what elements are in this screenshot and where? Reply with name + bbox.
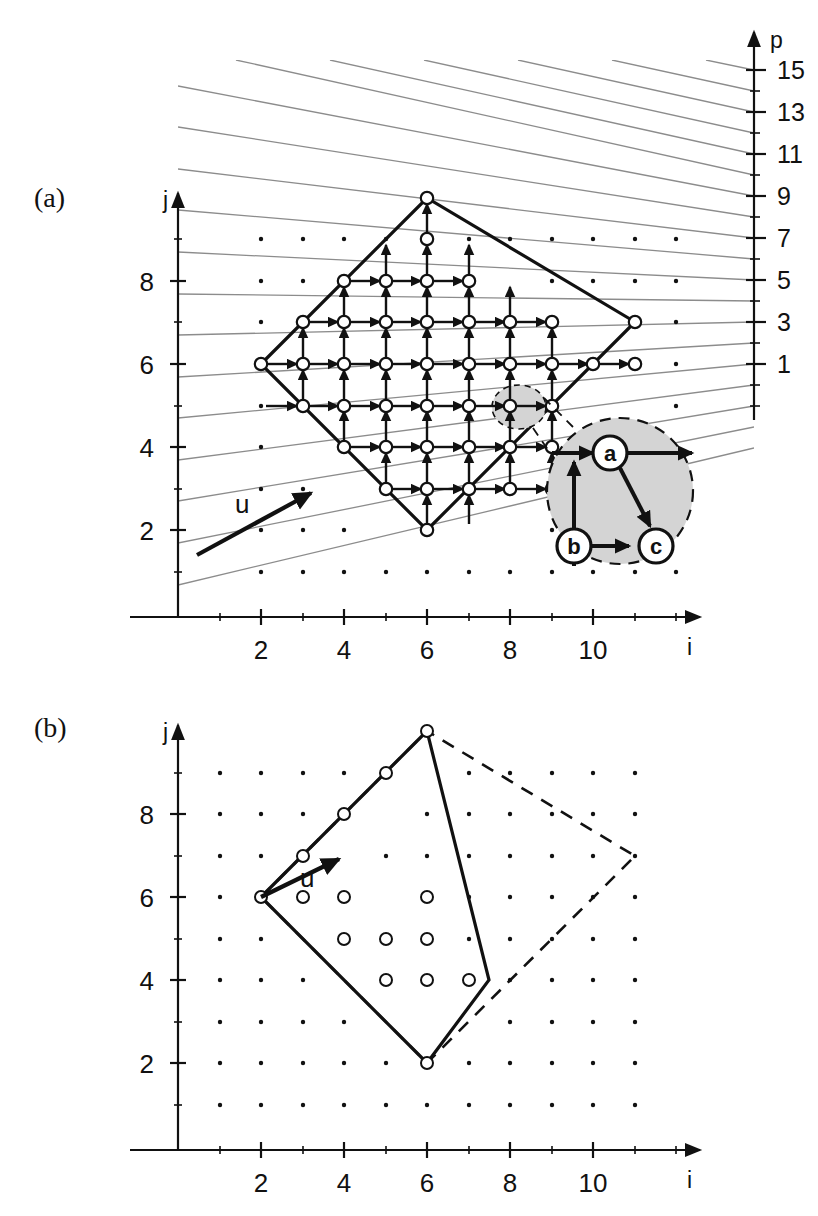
p-tick-label-9: 9: [777, 182, 791, 210]
y-axis-label-b: j: [162, 719, 168, 745]
x-tick-label-a-10: 10: [579, 635, 608, 665]
panel-b-label: (b): [34, 712, 67, 743]
p-tick-label-7: 7: [777, 224, 791, 252]
p-tick-label-1: 1: [777, 350, 791, 378]
y-tick-label-b-8: 8: [140, 800, 154, 830]
y-tick-label-a-4: 4: [140, 433, 154, 463]
y-tick-label-a-6: 6: [140, 350, 154, 380]
x-tick-label-a-2: 2: [254, 635, 268, 665]
vector-u-b-label: u: [300, 863, 314, 893]
p-tick-label-3: 3: [777, 308, 791, 336]
y-tick-label-b-4: 4: [140, 966, 154, 996]
iteration-space-figure: (a): [0, 0, 818, 1216]
detail-node-b-label: b: [567, 534, 580, 559]
x-axis-label-b: i: [687, 1167, 692, 1193]
x-tick-label-b-4: 4: [337, 1168, 351, 1198]
vector-u-a-label: u: [235, 489, 249, 519]
panel-b: (b): [34, 712, 700, 1198]
tile-nodes-b: [255, 725, 475, 1069]
p-tick-label-11: 11: [777, 140, 803, 168]
figure-root: (a): [0, 0, 818, 1216]
x-tick-label-b-8: 8: [503, 1168, 517, 1198]
x-tick-label-a-8: 8: [503, 635, 517, 665]
x-tick-label-b-10: 10: [579, 1168, 608, 1198]
tile-band-b: [261, 731, 489, 1063]
p-tick-label-15: 15: [777, 56, 805, 84]
panel-a: (a): [34, 27, 805, 665]
p-tick-label-13: 13: [777, 98, 805, 126]
detail-node-a-label: a: [604, 441, 617, 466]
detail-magnifier: a b c: [547, 418, 693, 566]
vector-u-b: u: [261, 859, 339, 897]
x-tick-label-b-2: 2: [254, 1168, 268, 1198]
x-tick-label-b-6: 6: [420, 1168, 434, 1198]
y-axis-label-a: j: [162, 187, 168, 213]
x-tick-label-a-6: 6: [420, 635, 434, 665]
panel-a-label: (a): [34, 182, 65, 213]
vector-u-a: u: [197, 489, 311, 555]
iteration-space-polygon-b: [261, 731, 635, 1063]
y-tick-label-a-2: 2: [140, 516, 154, 546]
detail-node-c-label: c: [650, 534, 662, 559]
p-axis-label: p: [770, 27, 783, 53]
p-tick-label-5: 5: [777, 266, 791, 294]
x-axis-label-a: i: [687, 634, 692, 660]
y-tick-label-a-8: 8: [140, 267, 154, 297]
x-tick-label-a-4: 4: [337, 635, 351, 665]
y-tick-label-b-2: 2: [140, 1049, 154, 1079]
y-tick-label-b-6: 6: [140, 883, 154, 913]
